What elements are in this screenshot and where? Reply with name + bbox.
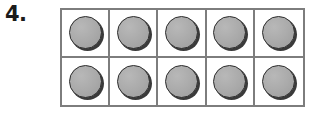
problem-number-label: 4. xyxy=(5,4,27,25)
counter-disc-icon[interactable] xyxy=(165,65,198,98)
counter-disc-icon[interactable] xyxy=(117,16,150,49)
counter-disc-icon[interactable] xyxy=(69,65,102,98)
counter-disc-icon[interactable] xyxy=(69,16,102,49)
ten-frame-cell[interactable] xyxy=(110,10,158,58)
counter-disc-icon[interactable] xyxy=(165,16,198,49)
counter-disc-icon[interactable] xyxy=(213,16,246,49)
ten-frame-cell[interactable] xyxy=(158,10,206,58)
ten-frame-cell[interactable] xyxy=(62,10,110,58)
ten-frame-cell[interactable] xyxy=(158,58,206,106)
ten-frame-cell[interactable] xyxy=(62,58,110,106)
counter-disc-icon[interactable] xyxy=(117,65,150,98)
ten-frame-cell[interactable] xyxy=(207,10,255,58)
worksheet-page: 4. xyxy=(0,0,321,122)
ten-frame-cell[interactable] xyxy=(207,58,255,106)
counter-disc-icon[interactable] xyxy=(262,65,295,98)
ten-frame-cell[interactable] xyxy=(255,10,303,58)
counter-disc-icon[interactable] xyxy=(262,16,295,49)
ten-frame-cell[interactable] xyxy=(255,58,303,106)
counter-disc-icon[interactable] xyxy=(213,65,246,98)
ten-frame-cell[interactable] xyxy=(110,58,158,106)
ten-frame-grid xyxy=(60,8,305,107)
